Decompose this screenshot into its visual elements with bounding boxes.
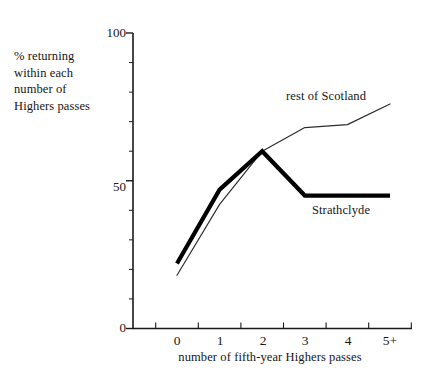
plot-area <box>0 0 435 381</box>
series-line-strathclyde <box>177 151 390 263</box>
series-lines <box>177 104 390 275</box>
series-line-rest-of-scotland <box>177 104 390 275</box>
axes-group <box>126 33 412 329</box>
chart-figure: % returning within each number of Higher… <box>0 0 435 381</box>
x-axis-ticks <box>156 323 412 329</box>
y-axis-ticks <box>126 33 133 329</box>
